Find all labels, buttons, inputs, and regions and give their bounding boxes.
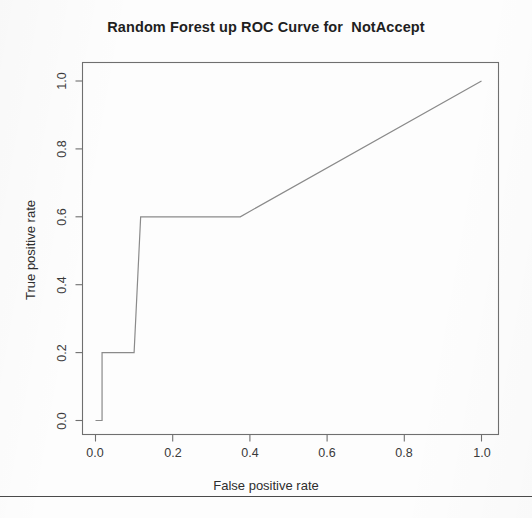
roc-plot: [0, 0, 532, 518]
plot-frame: [83, 63, 499, 435]
y-tick-label-3: 0.6: [55, 208, 69, 225]
x-tick-label-1: 0.2: [164, 446, 181, 460]
roc-curve-line: [96, 81, 482, 421]
x-axis-label: False positive rate: [0, 478, 532, 493]
x-tick-label-4: 0.8: [395, 446, 412, 460]
chart-page: Random Forest up ROC Curve for NotAccept…: [0, 0, 532, 518]
x-tick-label-0: 0.0: [86, 446, 103, 460]
y-tick-label-2: 0.4: [55, 276, 69, 293]
y-tick-label-4: 0.8: [55, 140, 69, 157]
y-tick-marks: [76, 81, 83, 421]
page-bottom-rule: [0, 496, 532, 497]
x-tick-label-3: 0.6: [318, 446, 335, 460]
y-tick-label-1: 0.2: [55, 344, 69, 361]
x-tick-label-5: 1.0: [473, 446, 490, 460]
x-tick-marks: [96, 435, 482, 442]
y-tick-label-5: 1.0: [55, 72, 69, 89]
y-tick-label-0: 0.0: [55, 412, 69, 429]
y-axis-label: True positive rate: [23, 200, 38, 300]
x-tick-label-2: 0.4: [241, 446, 258, 460]
